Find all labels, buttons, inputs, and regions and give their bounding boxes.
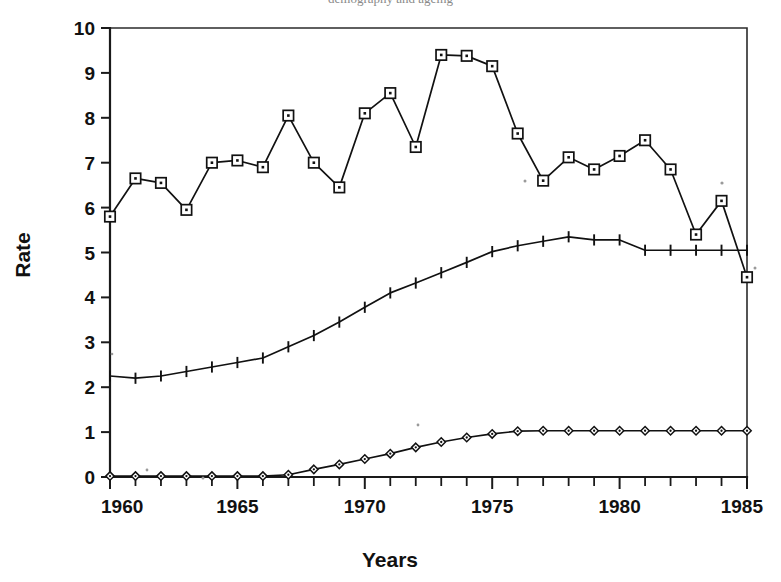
chart-figure: demography and ageing 012345678910 19601… <box>0 0 781 582</box>
x-tick-label: 1970 <box>344 496 386 517</box>
marker-square-center <box>236 159 239 162</box>
x-axis-title: Years <box>362 548 418 571</box>
y-tick-label: 9 <box>84 63 95 84</box>
marker-square-center <box>287 114 290 117</box>
x-axis-tick-labels: 196019651970197519801985 <box>101 496 763 517</box>
marker-square-center <box>618 155 621 158</box>
marker-diamond-center <box>185 475 187 477</box>
marker-diamond-center <box>542 430 544 432</box>
marker-diamond-center <box>720 430 722 432</box>
marker-diamond-center <box>491 433 493 435</box>
y-tick-label: 7 <box>84 153 95 174</box>
marker-square-center <box>567 156 570 159</box>
marker-diamond-center <box>262 475 264 477</box>
line-chart-plot: 012345678910 196019651970197519801985 Ra… <box>0 0 781 582</box>
marker-square-center <box>389 92 392 95</box>
marker-square-center <box>465 55 468 58</box>
marker-diamond-center <box>134 475 136 477</box>
marker-square-center <box>414 146 417 149</box>
marker-diamond-center <box>211 475 213 477</box>
y-tick-label: 6 <box>84 198 95 219</box>
y-tick-label: 4 <box>84 287 95 308</box>
marker-square-center <box>720 200 723 203</box>
series-diamond-line <box>110 431 747 476</box>
x-tick-label: 1975 <box>471 496 514 517</box>
marker-diamond-center <box>236 475 238 477</box>
marker-diamond-center <box>618 430 620 432</box>
x-tick-label: 1980 <box>598 496 640 517</box>
marker-diamond-center <box>466 436 468 438</box>
plot-frame <box>110 28 747 477</box>
marker-square-center <box>542 179 545 182</box>
marker-square-center <box>593 168 596 171</box>
marker-square-center <box>364 112 367 115</box>
marker-square-center <box>109 215 112 218</box>
marker-square-center <box>338 186 341 189</box>
marker-diamond-center <box>415 446 417 448</box>
marker-square-center <box>262 166 265 169</box>
marker-diamond-center <box>313 468 315 470</box>
marker-square-center <box>134 177 137 180</box>
marker-diamond-center <box>160 475 162 477</box>
y-axis-tick-labels: 012345678910 <box>74 18 96 488</box>
marker-square-center <box>185 209 188 212</box>
y-tick-label: 0 <box>84 467 95 488</box>
marker-diamond-center <box>389 453 391 455</box>
marker-square-center <box>669 168 672 171</box>
marker-diamond-center <box>567 430 569 432</box>
marker-square-center <box>211 161 214 164</box>
marker-diamond-center <box>644 430 646 432</box>
marker-diamond-center <box>746 430 748 432</box>
marker-diamond-center <box>440 441 442 443</box>
marker-square-center <box>644 139 647 142</box>
marker-diamond-center <box>338 463 340 465</box>
marker-square-center <box>516 132 519 135</box>
marker-square-center <box>695 233 698 236</box>
x-tick-label: 1985 <box>721 496 764 517</box>
series-plus <box>110 231 747 384</box>
marker-square-center <box>313 161 316 164</box>
y-tick-label: 2 <box>84 377 95 398</box>
y-tick-label: 8 <box>84 108 95 129</box>
series-square <box>105 50 752 283</box>
marker-diamond-center <box>695 430 697 432</box>
series-square-line <box>110 55 747 277</box>
x-tick-label: 1960 <box>101 496 143 517</box>
y-tick-label: 10 <box>74 18 95 39</box>
series-diamond <box>106 427 751 481</box>
y-axis-ticks <box>101 28 110 477</box>
x-axis-ticks <box>110 477 747 489</box>
y-tick-label: 5 <box>84 243 95 264</box>
marker-square-center <box>160 182 163 185</box>
marker-diamond-center <box>517 430 519 432</box>
y-axis-title: Rate <box>11 232 34 278</box>
marker-square-center <box>440 54 443 57</box>
y-tick-label: 1 <box>84 422 95 443</box>
marker-square-center <box>746 276 749 279</box>
y-tick-label: 3 <box>84 332 95 353</box>
scan-artifacts <box>111 180 757 480</box>
marker-diamond-center <box>364 458 366 460</box>
marker-square-center <box>491 65 494 68</box>
marker-diamond-center <box>109 475 111 477</box>
data-series-layer <box>105 50 752 481</box>
marker-diamond-center <box>287 474 289 476</box>
marker-diamond-center <box>593 430 595 432</box>
marker-diamond-center <box>669 430 671 432</box>
series-plus-line <box>110 237 747 378</box>
x-tick-label: 1965 <box>216 496 259 517</box>
